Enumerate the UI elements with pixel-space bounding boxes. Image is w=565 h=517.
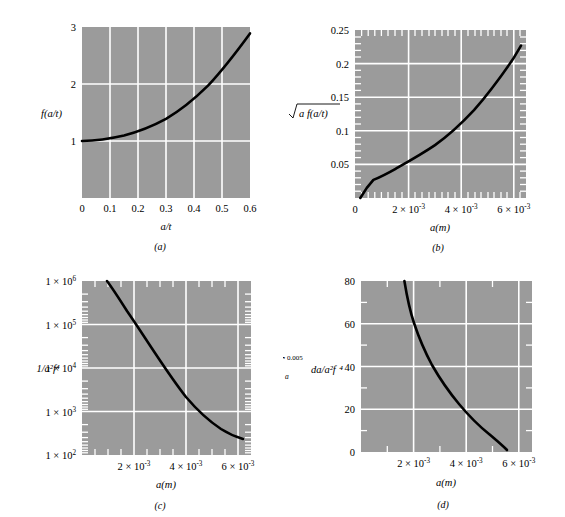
x-tick-labels-b: 0 2 × 10-3 4 × 10-3 6 × 10-3 bbox=[352, 203, 530, 215]
x-tick-6: 0.6 bbox=[243, 203, 256, 214]
y-tick-0: 0 bbox=[350, 447, 355, 458]
y-tick-labels-a: 1 2 3 bbox=[71, 22, 76, 147]
x-tick-2: 4 × 10-3 bbox=[445, 203, 478, 215]
x-tick-2: 0.2 bbox=[131, 203, 144, 214]
figure-container: 1 2 3 0 0.1 0.2 0.3 0.4 0.5 0.6 f(a/t) a… bbox=[0, 0, 565, 517]
y-tick-1: 0.1 bbox=[336, 126, 349, 137]
x-tick-3: 0.3 bbox=[159, 203, 172, 214]
panel-caption-c: (c) bbox=[154, 500, 166, 512]
panel-caption-a: (a) bbox=[154, 241, 166, 253]
integrand-label: da/a²f ⁴ bbox=[311, 364, 343, 375]
panel-a: 1 2 3 0 0.1 0.2 0.3 0.4 0.5 0.6 f(a/t) a… bbox=[0, 0, 282, 258]
y-tick-1e2: 1 × 102 bbox=[45, 449, 76, 461]
x-tick-0: 0 bbox=[352, 204, 357, 215]
y-tick-1e5: 1 × 105 bbox=[45, 319, 76, 331]
x-tick-2: 6 × 10-3 bbox=[222, 460, 255, 472]
x-tick-1: 2 × 10-3 bbox=[392, 203, 425, 215]
y-axis-label-c: 1/a²f⁴ bbox=[36, 363, 59, 374]
y-tick-60: 60 bbox=[345, 319, 356, 330]
x-tick-0: 2 × 10-3 bbox=[118, 460, 151, 472]
integral-upper-limit: 0.005 bbox=[287, 354, 303, 362]
x-tick-labels-a: 0 0.1 0.2 0.3 0.4 0.5 0.6 bbox=[79, 203, 256, 214]
integral-lower-limit: a bbox=[285, 372, 289, 381]
y-tick-1: 1 bbox=[71, 136, 76, 147]
x-tick-2: 6 × 10-3 bbox=[502, 457, 535, 469]
panel-d: 0 20 40 60 80 2 × 10-3 4 × 10-3 6 × 10-3… bbox=[283, 259, 565, 517]
x-tick-0: 0 bbox=[79, 203, 84, 214]
x-tick-3: 6 × 10-3 bbox=[497, 203, 530, 215]
x-tick-labels-d: 2 × 10-3 4 × 10-3 6 × 10-3 bbox=[397, 457, 536, 469]
panel-caption-b: (b) bbox=[432, 242, 444, 254]
y-axis-label-a: f(a/t) bbox=[41, 108, 62, 120]
x-tick-5: 0.5 bbox=[215, 203, 228, 214]
x-tick-1: 4 × 10-3 bbox=[450, 457, 483, 469]
panel-c: 1 × 106 1 × 105 1 × 104 1 × 103 1 × 102 … bbox=[0, 259, 282, 517]
y-tick-2: 0.15 bbox=[331, 92, 349, 103]
y-tick-3: 3 bbox=[71, 22, 76, 33]
x-tick-1: 4 × 10-3 bbox=[170, 460, 203, 472]
y-tick-0: 0.05 bbox=[331, 159, 349, 170]
x-axis-label-b: a(m) bbox=[430, 222, 450, 234]
y-tick-4: 0.25 bbox=[331, 25, 349, 36]
plot-background-b bbox=[355, 30, 526, 198]
y-tick-2: 2 bbox=[71, 79, 76, 90]
y-tick-1e3: 1 × 103 bbox=[45, 406, 76, 418]
panel-b: 0.05 0.1 0.15 0.2 0.25 0 2 × 10-3 4 × 10… bbox=[283, 0, 565, 258]
x-tick-0: 2 × 10-3 bbox=[397, 457, 430, 469]
x-axis-label-d: a(m) bbox=[436, 477, 456, 489]
x-axis-label-a: a/t bbox=[160, 221, 172, 232]
y-tick-20: 20 bbox=[345, 404, 356, 415]
y-tick-1e6: 1 × 106 bbox=[45, 275, 76, 287]
y-tick-3: 0.2 bbox=[336, 59, 349, 70]
y-axis-label-d: ∫ 0.005 a da/a²f ⁴ bbox=[283, 353, 343, 381]
y-tick-labels-d: 0 20 40 60 80 bbox=[345, 276, 356, 458]
y-tick-labels-b: 0.05 0.1 0.15 0.2 0.25 bbox=[331, 25, 349, 170]
y-tick-80: 80 bbox=[345, 276, 356, 287]
x-axis-label-c: a(m) bbox=[156, 479, 176, 491]
x-tick-4: 0.4 bbox=[187, 203, 201, 214]
panel-caption-d: (d) bbox=[437, 499, 449, 511]
y-axis-label-b: a f(a/t) bbox=[289, 104, 340, 120]
x-tick-labels-c: 2 × 10-3 4 × 10-3 6 × 10-3 bbox=[118, 460, 255, 472]
y-tick-40: 40 bbox=[345, 362, 356, 373]
x-tick-1: 0.1 bbox=[103, 203, 116, 214]
y-axis-label-b-radicand: a f(a/t) bbox=[299, 108, 328, 120]
